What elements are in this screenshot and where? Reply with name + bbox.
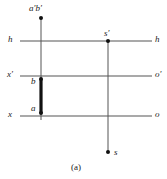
label-b: b <box>31 77 36 86</box>
label-s: s <box>114 148 118 157</box>
figure-caption: (a) <box>71 163 81 172</box>
label-oprime: o′ <box>155 70 161 79</box>
geometry-figure: a′b′ h h s′ x′ o′ b a x o s (a) <box>0 0 167 179</box>
point-s <box>106 150 110 154</box>
label-sprime: s′ <box>104 29 109 38</box>
label-x: x <box>8 110 12 119</box>
point-sprime <box>106 39 110 43</box>
label-a: a <box>31 104 36 113</box>
label-h-right: h <box>155 35 160 44</box>
label-h-left: h <box>8 35 13 44</box>
label-o: o <box>155 110 160 119</box>
label-xprime: x′ <box>7 70 13 79</box>
point-aprime-bprime <box>39 16 43 20</box>
figure-canvas <box>0 0 167 179</box>
label-aprime-bprime: a′b′ <box>29 4 42 13</box>
point-b <box>39 77 43 81</box>
point-a <box>39 111 43 115</box>
